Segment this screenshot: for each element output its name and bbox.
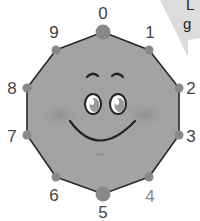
vertex-label-8: 8: [7, 80, 16, 97]
left-cheek: [38, 101, 82, 129]
vertex-label-6: 6: [49, 187, 58, 204]
left-eye: [85, 94, 101, 114]
vertex-dot-4: [145, 173, 154, 182]
vertex-dot-7: [23, 131, 32, 140]
vertex-dot-1: [145, 46, 154, 55]
vertex-dot-5: [96, 187, 111, 202]
right-eye: [110, 94, 126, 114]
vertex-label-1: 1: [145, 24, 154, 41]
speech-bubble-text-line1: L: [186, 0, 194, 12]
vertex-label-0: 0: [98, 5, 107, 22]
speech-bubble-text-line2: g: [183, 16, 191, 31]
decagon-face-diagram: [0, 0, 200, 221]
vertex-label-3: 3: [186, 128, 195, 145]
vertex-dot-9: [52, 46, 61, 55]
vertex-label-5: 5: [98, 204, 107, 221]
vertex-dot-2: [175, 84, 184, 93]
vertex-dot-6: [52, 173, 61, 182]
vertex-dot-0: [96, 25, 111, 40]
right-cheek: [123, 101, 167, 129]
vertex-label-7: 7: [7, 128, 16, 145]
diagram-stage: L g 0 1 2 3 4 5 6 7 8 9: [0, 0, 200, 221]
vertex-dot-3: [175, 131, 184, 140]
vertex-label-9: 9: [49, 24, 58, 41]
vertex-label-4: 4: [145, 188, 154, 205]
vertex-label-2: 2: [186, 80, 195, 97]
vertex-dot-8: [23, 84, 32, 93]
